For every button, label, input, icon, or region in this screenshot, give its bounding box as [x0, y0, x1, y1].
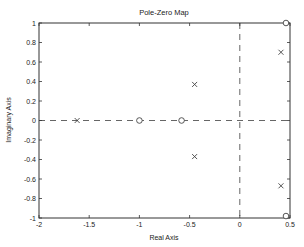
y-tick-label: 0.8 — [26, 39, 36, 46]
x-tick-label: -1 — [136, 221, 142, 228]
y-tick-label: 1 — [32, 20, 36, 27]
y-tick-label: 0.2 — [26, 98, 36, 105]
x-tick-label: 0 — [238, 221, 242, 228]
x-axis-title: Real Axis — [149, 234, 179, 241]
y-tick-label: -1 — [30, 215, 36, 222]
x-tick-label: -2 — [36, 221, 42, 228]
y-tick-label: 0 — [32, 117, 36, 124]
zero-marker — [137, 118, 143, 124]
zero-marker — [179, 118, 185, 124]
pole-marker — [192, 154, 197, 159]
x-tick-label: -1.5 — [83, 221, 95, 228]
pole-zero-map-chart: Pole-Zero Map Real Axis Imaginary Axis -… — [0, 0, 304, 247]
y-tick-label: -0.8 — [24, 195, 36, 202]
y-tick-label: -0.6 — [24, 176, 36, 183]
x-tick-label: 0.5 — [285, 221, 295, 228]
zero-marker — [283, 20, 289, 26]
y-tick-label: 0.6 — [26, 59, 36, 66]
pole-marker — [278, 183, 283, 188]
x-ticks: -2-1.5-1-0.500.5 — [36, 23, 295, 228]
y-axis-title: Imaginary Axis — [5, 97, 13, 143]
chart-title: Pole-Zero Map — [139, 8, 189, 17]
y-tick-label: -0.2 — [24, 137, 36, 144]
y-tick-label: -0.4 — [24, 156, 36, 163]
zero-marker — [283, 213, 289, 219]
pole-marker — [192, 82, 197, 87]
x-tick-label: -0.5 — [184, 221, 196, 228]
pole-marker — [278, 50, 283, 55]
y-tick-label: 0.4 — [26, 78, 36, 85]
markers — [75, 20, 289, 219]
